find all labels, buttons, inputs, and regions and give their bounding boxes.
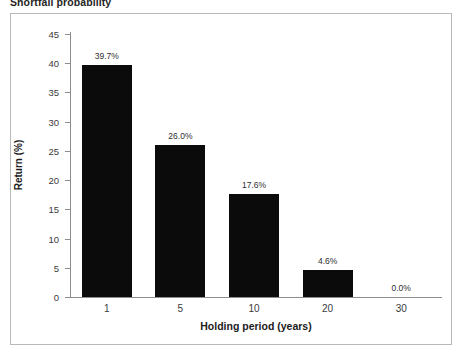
- x-axis-tick-label: 1: [104, 303, 110, 314]
- y-axis-tick: [65, 297, 70, 298]
- x-axis-tick-label: 10: [248, 303, 259, 314]
- chart-title: Shortfall probability: [10, 0, 111, 8]
- y-axis-tick-label: 25: [33, 145, 59, 156]
- bar-value-label: 0.0%: [392, 283, 411, 293]
- bar: [229, 194, 279, 297]
- y-axis-tick-label: 45: [33, 29, 59, 40]
- y-axis-tick-label: 10: [33, 233, 59, 244]
- bar: [155, 145, 205, 297]
- bar-value-label: 17.6%: [242, 180, 266, 190]
- y-axis-tick: [65, 180, 70, 181]
- y-axis-tick-label: 15: [33, 204, 59, 215]
- y-axis-tick-label: 20: [33, 175, 59, 186]
- bar: [303, 270, 353, 297]
- y-axis-title: Return (%): [13, 140, 24, 191]
- bar-value-label: 26.0%: [168, 131, 192, 141]
- y-axis-line: [70, 32, 71, 298]
- y-axis-tick: [65, 122, 70, 123]
- y-axis-tick-label: 0: [33, 292, 59, 303]
- y-axis-tick: [65, 268, 70, 269]
- x-axis-line: [70, 297, 442, 298]
- y-axis-tick: [65, 34, 70, 35]
- x-axis-tick-label: 5: [178, 303, 184, 314]
- bar: [82, 65, 132, 297]
- bar-value-label: 4.6%: [318, 256, 337, 266]
- bar-value-label: 39.7%: [95, 51, 119, 61]
- x-axis-tick-label: 20: [322, 303, 333, 314]
- y-axis-tick: [65, 209, 70, 210]
- x-axis-title: Holding period (years): [200, 320, 311, 332]
- y-axis-tick-label: 5: [33, 262, 59, 273]
- y-axis-tick: [65, 92, 70, 93]
- x-axis-tick-label: 30: [396, 303, 407, 314]
- y-axis-tick: [65, 151, 70, 152]
- y-axis-tick: [65, 63, 70, 64]
- y-axis-tick-label: 40: [33, 58, 59, 69]
- y-axis-tick-label: 35: [33, 87, 59, 98]
- y-axis-tick: [65, 239, 70, 240]
- y-axis-tick-label: 30: [33, 116, 59, 127]
